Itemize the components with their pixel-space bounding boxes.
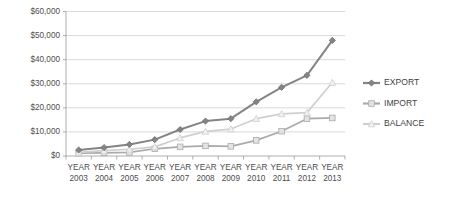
data-point-import-2008	[203, 143, 209, 149]
data-point-import-2012	[304, 116, 310, 122]
y-axis-tick-label: $50,000	[30, 31, 60, 40]
data-point-import-2009	[228, 144, 234, 150]
legend-label-import: IMPORT	[384, 98, 418, 108]
y-axis-tick-label: $40,000	[30, 55, 60, 64]
x-axis-tick-label-value: 2009	[222, 174, 241, 183]
legend-label-balance: BALANCE	[384, 118, 424, 128]
x-axis-tick-label-value: 2012	[298, 174, 317, 183]
x-axis-tick-label-value: 2011	[273, 174, 291, 183]
x-axis-tick-label-year: YEAR	[220, 163, 242, 172]
x-axis-tick-label-year: YEAR	[93, 163, 115, 172]
y-axis-tick-label: $10,000	[30, 127, 60, 136]
x-axis-tick-label-year: YEAR	[245, 163, 267, 172]
x-axis-tick-label-value: 2005	[120, 174, 139, 183]
x-axis-tick-label-year: YEAR	[194, 163, 216, 172]
x-axis-tick-label-year: YEAR	[296, 163, 318, 172]
x-axis-tick-label-year: YEAR	[118, 163, 140, 172]
data-point-import-2007	[177, 144, 183, 150]
x-axis-tick-label-value: 2008	[196, 174, 215, 183]
y-axis-tick-label: $60,000	[30, 7, 60, 16]
line-chart: $0$10,000$20,000$30,000$40,000$50,000$60…	[0, 0, 449, 200]
y-axis-tick-label: $0	[51, 151, 61, 160]
x-axis-tick-label-year: YEAR	[169, 163, 191, 172]
x-axis-tick-label-value: 2007	[171, 174, 190, 183]
legend-marker-import	[369, 101, 375, 107]
x-axis-tick-label-year: YEAR	[270, 163, 292, 172]
x-axis-tick-label-year: YEAR	[321, 163, 343, 172]
data-point-import-2010	[253, 138, 259, 144]
x-axis-tick-label-value: 2004	[95, 174, 114, 183]
data-point-import-2011	[279, 128, 285, 134]
x-axis-tick-label-value: 2010	[247, 174, 266, 183]
y-axis-tick-label: $20,000	[30, 103, 60, 112]
data-point-import-2013	[330, 115, 336, 121]
legend-label-export: EXPORT	[384, 77, 420, 87]
x-axis-tick-label-year: YEAR	[68, 163, 90, 172]
x-axis-tick-label-value: 2003	[70, 174, 89, 183]
x-axis-tick-label-value: 2006	[146, 174, 165, 183]
chart-canvas: $0$10,000$20,000$30,000$40,000$50,000$60…	[0, 0, 449, 200]
y-axis-tick-label: $30,000	[30, 79, 60, 88]
x-axis-tick-label-value: 2013	[323, 174, 342, 183]
x-axis-tick-label-year: YEAR	[144, 163, 166, 172]
